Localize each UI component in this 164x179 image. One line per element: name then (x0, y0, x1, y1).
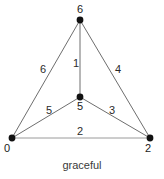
edge-label-vertical: 1 (56, 58, 96, 69)
edge-label-base: 2 (60, 126, 100, 137)
graph-vertex-bottom-left (9, 135, 16, 142)
vertex-label-bottom-left: 0 (0, 143, 27, 154)
vertex-label-top: 6 (60, 4, 100, 15)
vertex-label-bottom-right: 2 (128, 143, 164, 154)
edge-label-right-inner: 3 (92, 105, 132, 116)
graph-edge-right-outer (80, 20, 150, 138)
vertices-group (9, 17, 154, 142)
figure-caption: graceful (0, 160, 164, 171)
graph-edge-left-outer (12, 20, 80, 138)
edge-label-left-inner: 5 (29, 105, 69, 116)
edges-group (12, 20, 150, 138)
graceful-graph-figure: 6 5 0 2 6 1 4 5 3 2 graceful (0, 0, 164, 179)
graph-vertex-top (77, 17, 84, 24)
edge-label-right-outer: 4 (98, 64, 138, 75)
graph-vertex-bottom-right (147, 135, 154, 142)
